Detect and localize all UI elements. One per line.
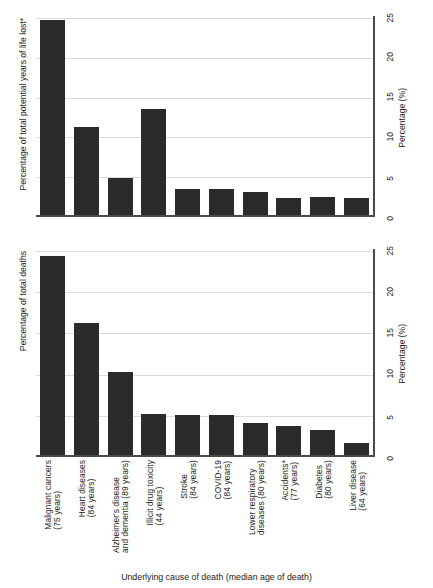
category-label: Heart diseases(84 years) bbox=[78, 460, 96, 517]
bar-series-total-deaths bbox=[36, 251, 373, 455]
bar bbox=[243, 192, 268, 216]
value-axis-tick-label: 20 bbox=[385, 52, 395, 63]
axis-title-text: Percentage of total deaths bbox=[19, 251, 28, 351]
value-axis-ticks: 0510152025 bbox=[377, 18, 397, 217]
bar bbox=[209, 189, 234, 216]
bar-slot bbox=[137, 251, 171, 455]
category-label: Alzheimer's diseaseand dementia (89 year… bbox=[112, 460, 130, 553]
bar bbox=[243, 423, 268, 456]
bar bbox=[108, 178, 133, 215]
bar-slot bbox=[272, 18, 306, 215]
category-label-line: (84 years) bbox=[87, 460, 96, 517]
category-label-line: (80 years) bbox=[324, 460, 333, 499]
axis-title-text: Percentage of total potential years of l… bbox=[19, 18, 28, 190]
category-label-slot: COVID-19(84 years) bbox=[206, 460, 240, 564]
value-axis-tick-label: 10 bbox=[385, 132, 395, 143]
value-axis-tick-label: 20 bbox=[385, 287, 395, 298]
plot-area-total-deaths: 0510152025 bbox=[36, 251, 375, 457]
value-axis-title-top: Percentage (%) bbox=[398, 18, 407, 217]
bar bbox=[108, 372, 133, 455]
bar-slot bbox=[171, 18, 205, 215]
value-axis-title-text: Percentage (%) bbox=[398, 324, 407, 384]
chart-panel-years-of-life-lost: 0510152025 bbox=[36, 18, 375, 217]
value-axis-tick-label: 25 bbox=[385, 13, 395, 24]
bar bbox=[40, 20, 65, 215]
category-label-line: (84 years) bbox=[222, 460, 231, 499]
category-label-slot: Diabetes(80 years) bbox=[307, 460, 341, 564]
bar-slot bbox=[70, 18, 104, 215]
bar-slot bbox=[306, 18, 340, 215]
bar-slot bbox=[272, 251, 306, 455]
category-label-slot: Accidents*(77 years) bbox=[273, 460, 307, 564]
value-axis-tick-label: 10 bbox=[385, 369, 395, 380]
category-label-line: (84 years) bbox=[189, 460, 198, 499]
bar bbox=[344, 443, 369, 455]
category-label-slot: Lower respiratorydiseases (80 years) bbox=[239, 460, 273, 564]
figure-root: 0510152025 Percentage of total potential… bbox=[0, 0, 433, 588]
chart-panel-total-deaths: 0510152025 bbox=[36, 251, 375, 457]
bar-slot bbox=[339, 18, 373, 215]
bar-slot bbox=[205, 251, 239, 455]
axis-title-years-of-life-lost: Percentage of total potential years of l… bbox=[19, 18, 28, 217]
bar-series-years-of-life-lost bbox=[36, 18, 373, 215]
category-label-line: (77 years) bbox=[290, 460, 299, 501]
value-axis-title-text: Percentage (%) bbox=[398, 88, 407, 148]
category-label-slot: Heart diseases(84 years) bbox=[70, 460, 104, 564]
bar-slot bbox=[103, 18, 137, 215]
axis-title-total-deaths: Percentage of total deaths bbox=[19, 251, 28, 457]
value-axis-tick-label: 15 bbox=[385, 328, 395, 339]
bar-slot bbox=[70, 251, 104, 455]
category-label-slot: Illicit drug toxicity(44 years) bbox=[138, 460, 172, 564]
bar bbox=[276, 198, 301, 215]
bar bbox=[209, 415, 234, 455]
category-axis-line bbox=[36, 215, 375, 217]
bar bbox=[141, 109, 166, 216]
category-label-line: diseases (80 years) bbox=[256, 460, 265, 535]
value-axis-tick-label: 5 bbox=[385, 412, 395, 422]
category-label: Stroke(84 years) bbox=[180, 460, 198, 499]
category-label: Accidents*(77 years) bbox=[281, 460, 299, 501]
value-axis-line bbox=[373, 249, 375, 457]
value-axis-tick-label: 0 bbox=[385, 213, 395, 223]
category-axis-labels: Malignant cancers(75 years)Heart disease… bbox=[36, 460, 375, 564]
value-axis-tick-label: 25 bbox=[385, 246, 395, 257]
bar-slot bbox=[339, 251, 373, 455]
bar bbox=[141, 414, 166, 456]
bar-slot bbox=[306, 251, 340, 455]
category-label: COVID-19(84 years) bbox=[214, 460, 232, 499]
category-label: Illicit drug toxicity(44 years) bbox=[146, 460, 164, 525]
category-label-slot: Stroke(84 years) bbox=[172, 460, 206, 564]
bar bbox=[74, 323, 99, 455]
bar-slot bbox=[171, 251, 205, 455]
bar-slot bbox=[205, 18, 239, 215]
bar bbox=[40, 256, 65, 456]
category-label-line: (75 years) bbox=[53, 460, 62, 530]
bar bbox=[344, 198, 369, 215]
bar-slot bbox=[238, 251, 272, 455]
bar-slot bbox=[103, 251, 137, 455]
bar-slot bbox=[36, 251, 70, 455]
bar bbox=[276, 426, 301, 455]
value-axis-line bbox=[373, 16, 375, 217]
category-label: Lower respiratorydiseases (80 years) bbox=[248, 460, 266, 535]
category-label-line: (64 years) bbox=[358, 460, 367, 511]
bar-slot bbox=[137, 18, 171, 215]
category-label-slot: Malignant cancers(75 years) bbox=[36, 460, 70, 564]
category-label-slot: Liver disease(64 years) bbox=[341, 460, 375, 564]
bar-slot bbox=[36, 18, 70, 215]
category-label: Liver disease(64 years) bbox=[349, 460, 367, 511]
category-label-line: (44 years) bbox=[155, 460, 164, 525]
category-axis-line bbox=[36, 455, 375, 457]
bar bbox=[175, 415, 200, 456]
category-label: Malignant cancers(75 years) bbox=[44, 460, 62, 530]
bar-slot bbox=[238, 18, 272, 215]
category-label: Diabetes(80 years) bbox=[315, 460, 333, 499]
value-axis-ticks: 0510152025 bbox=[377, 251, 397, 457]
x-axis-title: Underlying cause of death (median age of… bbox=[0, 572, 433, 582]
value-axis-tick-label: 5 bbox=[385, 173, 395, 183]
bar bbox=[175, 189, 200, 216]
category-label-slot: Alzheimer's diseaseand dementia (89 year… bbox=[104, 460, 138, 564]
category-label-line: and dementia (89 years) bbox=[121, 460, 130, 553]
value-axis-tick-label: 0 bbox=[385, 453, 395, 463]
value-axis-tick-label: 15 bbox=[385, 92, 395, 103]
